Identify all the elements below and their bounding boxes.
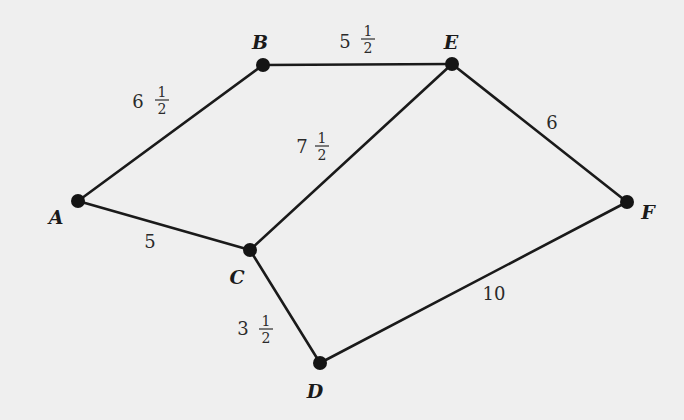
node-label-b: B <box>251 31 268 53</box>
weight-numerator: 1 <box>318 130 327 146</box>
edge-weight-ab: 612 <box>132 84 169 117</box>
edge-c-d <box>250 250 320 363</box>
weight-whole: 10 <box>483 283 506 304</box>
node-label-a: A <box>47 206 64 228</box>
weight-numerator: 1 <box>158 84 167 100</box>
edge-weight-ac: 5 <box>144 231 155 252</box>
weight-whole: 6 <box>132 91 143 112</box>
graph-diagram: 6125127126531210 ABEFCD <box>0 0 684 420</box>
node-e <box>445 57 459 71</box>
node-f <box>620 195 634 209</box>
weight-numerator: 1 <box>364 23 373 39</box>
weight-whole: 5 <box>144 231 155 252</box>
edge-weight-df: 10 <box>483 283 506 304</box>
edge-a-c <box>78 201 250 250</box>
weight-whole: 5 <box>339 31 350 52</box>
edge-weight-cd: 312 <box>237 313 273 346</box>
node-d <box>313 356 327 370</box>
edge-d-f <box>320 202 627 363</box>
weight-whole: 7 <box>296 136 307 157</box>
edge-b-e <box>263 64 452 65</box>
edge-weight-ef: 6 <box>546 112 557 133</box>
nodes-layer <box>71 57 634 370</box>
edge-a-b <box>78 65 263 201</box>
weight-numerator: 1 <box>262 313 271 329</box>
weight-denominator: 2 <box>262 330 271 346</box>
edge-e-f <box>452 64 627 202</box>
weight-whole: 6 <box>546 112 557 133</box>
weight-denominator: 2 <box>158 101 167 117</box>
node-label-f: F <box>640 201 656 223</box>
node-label-e: E <box>443 31 459 53</box>
node-label-c: C <box>229 266 244 288</box>
weight-denominator: 2 <box>318 147 327 163</box>
node-b <box>256 58 270 72</box>
edge-weights-layer: 6125127126531210 <box>132 23 557 346</box>
edge-c-e <box>250 64 452 250</box>
weight-whole: 3 <box>237 318 248 339</box>
node-label-d: D <box>306 380 324 402</box>
graph-svg: 6125127126531210 ABEFCD <box>0 0 684 420</box>
edge-weight-be: 512 <box>339 23 375 56</box>
node-a <box>71 194 85 208</box>
edge-weight-ce: 712 <box>296 130 329 163</box>
node-c <box>243 243 257 257</box>
weight-denominator: 2 <box>364 40 373 56</box>
